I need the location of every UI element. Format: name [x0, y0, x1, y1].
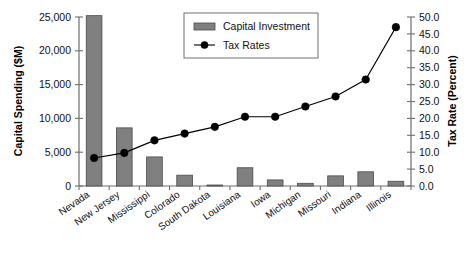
left-tick-label: 5,000 — [45, 146, 71, 158]
marker-michigan — [302, 103, 310, 111]
legend-swatch-capital-investment — [194, 23, 215, 30]
right-tick-label: 45.0 — [419, 28, 440, 40]
left-tick-label: 15,000 — [39, 78, 71, 90]
left-tick-label: 10,000 — [39, 112, 71, 124]
x-axis-label-illinois: Illinois — [364, 189, 393, 214]
x-axis: NevadaNew JerseyMississippiColoradoSouth… — [57, 186, 411, 232]
right-tick-label: 10.0 — [419, 146, 440, 158]
left-axis: 05,00010,00015,00020,00025,000 Capital S… — [12, 11, 83, 192]
right-tick-label: 40.0 — [419, 44, 440, 56]
bar-michigan — [298, 183, 314, 186]
right-tick-label: 0.0 — [419, 180, 434, 192]
chart-container: 05,00010,00015,00020,00025,000 Capital S… — [0, 0, 476, 262]
legend-label-capital-investment: Capital Investment — [223, 20, 310, 32]
right-tick-label: 15.0 — [419, 129, 440, 141]
bar-new-jersey — [116, 128, 132, 186]
left-tick-label: 0 — [65, 180, 71, 192]
left-tick-label: 25,000 — [39, 11, 71, 23]
x-axis-label-indiana: Indiana — [330, 188, 364, 216]
x-axis-label-missouri: Missouri — [296, 189, 333, 219]
marker-new-jersey — [120, 149, 128, 157]
right-tick-label: 35.0 — [419, 61, 440, 73]
marker-illinois — [392, 23, 400, 31]
bar-colorado — [177, 175, 193, 186]
right-axis-tick-labels: 0.05.010.015.020.025.030.035.040.045.050… — [419, 11, 440, 192]
dual-axis-chart: 05,00010,00015,00020,00025,000 Capital S… — [0, 0, 476, 262]
right-tick-label: 30.0 — [419, 78, 440, 90]
marker-missouri — [332, 93, 340, 101]
bar-illinois — [388, 181, 404, 186]
bar-iowa — [267, 180, 283, 186]
right-axis: 0.05.010.015.020.025.030.035.040.045.050… — [407, 11, 458, 192]
right-tick-label: 25.0 — [419, 95, 440, 107]
legend-label-tax-rates: Tax Rates — [223, 39, 270, 51]
right-axis-title: Tax Rate (Percent) — [446, 55, 458, 146]
right-tick-label: 20.0 — [419, 112, 440, 124]
right-tick-label: 50.0 — [419, 11, 440, 23]
bar-indiana — [358, 172, 374, 186]
marker-nevada — [90, 154, 98, 162]
bar-missouri — [328, 176, 344, 186]
legend: Capital Investment Tax Rates — [184, 13, 318, 58]
left-axis-tick-labels: 05,00010,00015,00020,00025,000 — [39, 11, 71, 192]
bar-louisiana — [237, 168, 253, 186]
left-axis-title: Capital Spending ($M) — [12, 46, 24, 156]
left-tick-label: 20,000 — [39, 44, 71, 56]
right-tick-label: 5.0 — [419, 163, 434, 175]
marker-mississippi — [151, 137, 159, 145]
marker-south-dakota — [211, 123, 219, 131]
legend-marker-tax-rates — [201, 41, 208, 48]
marker-louisiana — [241, 113, 249, 121]
bar-south-dakota — [207, 185, 223, 186]
marker-iowa — [271, 113, 279, 121]
marker-indiana — [362, 76, 370, 84]
x-axis-category-labels: NevadaNew JerseyMississippiColoradoSouth… — [57, 188, 393, 232]
x-axis-ticks — [79, 186, 411, 190]
marker-colorado — [181, 130, 189, 138]
bar-mississippi — [147, 157, 163, 186]
